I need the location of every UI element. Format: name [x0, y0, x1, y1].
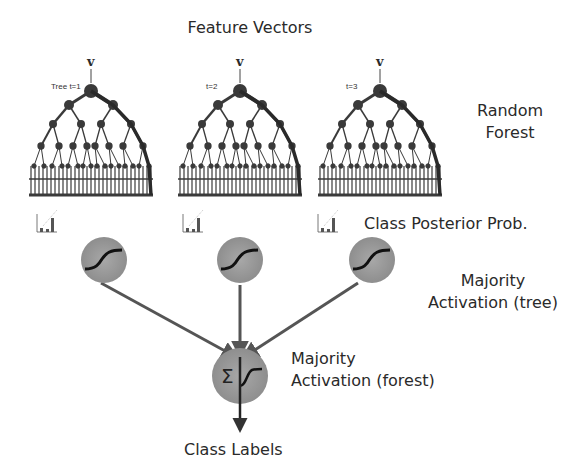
sigmoid-node-3 — [349, 237, 395, 283]
input-v-2: v — [236, 54, 244, 69]
class-labels-label: Class Labels — [184, 440, 283, 459]
tree-2 — [178, 69, 302, 195]
random-forest-line2: Forest — [460, 122, 560, 144]
majority-forest-line2: Activation (forest) — [291, 370, 435, 392]
tree-label-2: t=2 — [206, 82, 217, 91]
class-posterior-label: Class Posterior Prob. — [364, 214, 528, 233]
feature-vectors-title: Feature Vectors — [160, 18, 340, 37]
tree-3 — [318, 69, 442, 195]
majority-tree-label: Majority Activation (tree) — [408, 270, 578, 314]
majority-tree-line1: Majority — [408, 270, 578, 292]
majority-forest-label: Majority Activation (forest) — [291, 348, 435, 392]
input-v-3: v — [376, 54, 384, 69]
majority-tree-line2: Activation (tree) — [408, 292, 578, 314]
tree-label-1: Tree t=1 — [51, 82, 81, 91]
random-forest-label: Random Forest — [460, 100, 560, 144]
sigmoid-node-1 — [81, 237, 127, 283]
diagram-graphics — [0, 0, 584, 476]
random-forest-line1: Random — [460, 100, 560, 122]
random-forest-diagram: Feature Vectors v v v Tree t=1 t=2 t=3 R… — [0, 0, 584, 476]
input-v-1: v — [87, 54, 95, 69]
tree-label-3: t=3 — [346, 82, 357, 91]
tree-1 — [29, 69, 153, 195]
majority-forest-line1: Majority — [291, 348, 435, 370]
sigmoid-node-2 — [217, 237, 263, 283]
sum-icon: Σ — [221, 364, 234, 388]
